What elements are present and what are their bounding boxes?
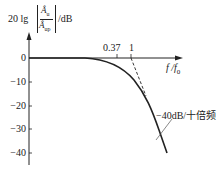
x-axis-arrow-icon <box>175 56 183 61</box>
x-axis-label: f /f0 <box>166 63 180 76</box>
asymptote-line <box>131 58 146 96</box>
y-axis-arrow-icon <box>27 32 32 40</box>
y-tick-10: −10 <box>4 77 26 87</box>
y-tick-40: −40 <box>4 148 26 158</box>
y-tick-0: 0 <box>4 53 26 63</box>
y-unit: /dB <box>58 14 72 24</box>
y-tick-30: −30 <box>4 124 26 134</box>
y-axis-label: 20 lg <box>8 14 28 24</box>
slope-annotation: −40dB/十倍频 <box>156 111 216 121</box>
plot-canvas <box>0 0 220 173</box>
x-tick-label-037: 0.37 <box>103 43 121 53</box>
y-tick-20: −20 <box>4 101 26 111</box>
response-curve <box>29 58 167 153</box>
bode-diagram: 20 lg Âu Âup /dB 0 −10 −20 −30 −40 0.37 … <box>0 0 220 173</box>
x-tick-label-1: 1 <box>129 43 134 53</box>
